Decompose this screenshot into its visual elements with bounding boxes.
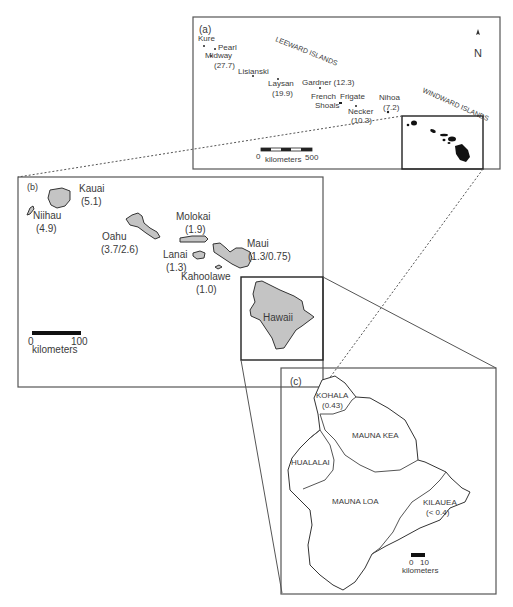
panel-c-label: (c) xyxy=(290,376,302,387)
laysan-age: (19.9) xyxy=(272,89,293,98)
gardner-label: Gardner (12.3) xyxy=(302,78,355,87)
svg-text:kilometers: kilometers xyxy=(32,344,78,355)
niihau-age: (4.9) xyxy=(36,223,57,234)
molokai-label: Molokai xyxy=(176,211,210,222)
kahoolawe-island xyxy=(215,265,222,269)
oahu-label: Oahu xyxy=(102,231,126,242)
mauna-kea-label: MAUNA KEA xyxy=(352,431,399,440)
zoom-line-b-c-right xyxy=(323,277,496,368)
kohala-age: (0.43) xyxy=(322,401,343,410)
windward-islands-label: WINDWARD ISLANDS xyxy=(422,87,491,123)
oahu-island xyxy=(126,213,160,239)
mauna-loa-label: MAUNA LOA xyxy=(332,497,379,506)
kahoolawe-label: Kahoolawe xyxy=(181,271,231,282)
svg-text:kilometers: kilometers xyxy=(402,566,438,575)
panel-b-frame xyxy=(18,177,323,387)
midway-age: (27.7) xyxy=(214,61,235,70)
kauai-age: (5.1) xyxy=(81,196,102,207)
panel-a-scale-bar: 0 kilometers 500 xyxy=(256,148,319,164)
kahoolawe-age: (1.0) xyxy=(196,284,217,295)
french-label: French xyxy=(311,92,336,101)
maui-label: Maui xyxy=(247,238,269,249)
panel-b-scale-bar: 0 100 kilometers xyxy=(28,331,88,355)
niihau-label: Niihau xyxy=(33,210,61,221)
panel-b: (b) Kauai (5.1) Niihau (4.9) Oahu (3.7/2… xyxy=(18,177,323,387)
hualalai-label: HUALALAI xyxy=(291,458,330,467)
hawaii-label: Hawaii xyxy=(263,312,293,323)
svg-text:500: 500 xyxy=(305,153,319,162)
kohala-label: KOHALA xyxy=(316,391,349,400)
laysan-label: Laysan xyxy=(268,79,294,88)
svg-text:N: N xyxy=(474,47,482,59)
lanai-island xyxy=(193,251,205,259)
panel-a: (a) N LEEWARD ISLANDS WINDWARD ISLANDS K… xyxy=(193,17,500,169)
panel-c: (c) KOHALA (0.43) MAUNA KEA HUALALAI MAU… xyxy=(281,368,496,594)
kauai-island xyxy=(48,188,70,208)
shoals-label: Shoals xyxy=(315,101,339,110)
zoom-line-b-c-left xyxy=(241,360,282,593)
lisianski-label: Lisianski xyxy=(238,67,269,76)
midway-label: Midway xyxy=(205,51,232,60)
maui-age: (1.3/0.75) xyxy=(248,251,291,262)
hawaii-outline xyxy=(288,376,470,590)
nihoa-age: (7.2) xyxy=(383,103,400,112)
leeward-islands-label: LEEWARD ISLANDS xyxy=(275,35,339,66)
main-islands-silhouette xyxy=(407,121,470,163)
panel-c-scale-bar: 0 10 kilometers xyxy=(402,553,438,575)
necker-label: Necker xyxy=(348,107,374,116)
kilauea-label: KILAUEA xyxy=(423,498,457,507)
frigate-label: Frigate xyxy=(340,92,365,101)
zoom-line-a-b-right xyxy=(323,169,483,387)
nihoa-label: Nihoa xyxy=(379,93,400,102)
north-arrow-icon: N xyxy=(474,29,482,59)
kure-label: Kure xyxy=(198,34,215,43)
kilauea-age: (< 0.4) xyxy=(426,508,450,517)
panel-b-label: (b) xyxy=(27,182,38,192)
molokai-age: (1.9) xyxy=(185,224,206,235)
oahu-age: (3.7/2.6) xyxy=(101,244,138,255)
svg-text:kilometers: kilometers xyxy=(265,155,301,164)
zoom-line-a-b-left xyxy=(18,116,402,177)
kauai-label: Kauai xyxy=(79,183,105,194)
svg-text:0: 0 xyxy=(256,152,261,161)
lanai-label: Lanai xyxy=(163,249,187,260)
hawaiian-islands-map: (a) N LEEWARD ISLANDS WINDWARD ISLANDS K… xyxy=(0,0,513,607)
molokai-island xyxy=(180,236,208,242)
